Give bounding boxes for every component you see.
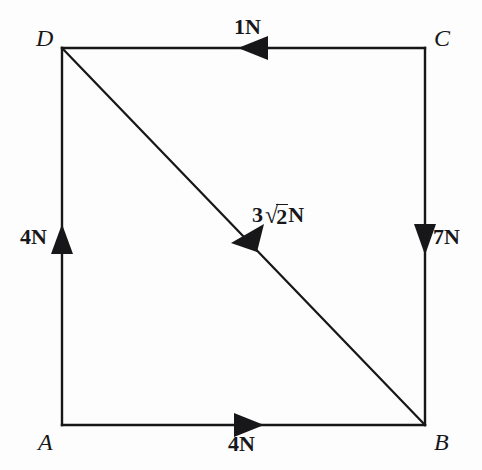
vertex-label-B: B	[434, 430, 449, 454]
force-diagonal-coefficient: 3	[252, 204, 263, 226]
force-label-diagonal: 3 √ 2 N	[252, 204, 304, 228]
force-label-left: 4N	[20, 226, 47, 248]
vertex-label-C: C	[434, 26, 451, 50]
arrowhead-left-up	[51, 224, 73, 254]
force-diagonal-unit: N	[288, 204, 304, 226]
force-label-right: 7N	[433, 226, 460, 248]
square-force-diagram	[0, 0, 482, 470]
vertex-label-A: A	[38, 430, 53, 454]
force-diagonal-radical-group: √ 2	[265, 204, 288, 228]
force-label-top: 1N	[234, 16, 261, 38]
arrowhead-top-left	[238, 36, 268, 60]
force-label-bottom: 4N	[228, 433, 255, 455]
vertex-label-D: D	[36, 26, 54, 50]
figure-canvas: D C A B 1N 4N 7N 4N 3 √ 2 N	[0, 0, 482, 470]
radical-icon: √	[265, 203, 278, 227]
